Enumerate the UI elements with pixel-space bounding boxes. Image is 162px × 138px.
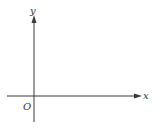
x-axis-label: x bbox=[143, 90, 149, 101]
origin-label: O bbox=[23, 101, 31, 112]
axes-figure: y x O bbox=[0, 0, 162, 138]
coordinate-plane: y x O bbox=[0, 0, 162, 138]
y-axis-arrowhead-icon bbox=[32, 15, 37, 23]
y-axis-label: y bbox=[29, 5, 36, 16]
x-axis-arrowhead-icon bbox=[134, 94, 142, 99]
